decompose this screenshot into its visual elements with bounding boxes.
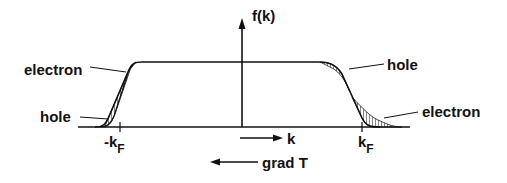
leader-right-hole <box>349 64 384 69</box>
neg-fermi-text: -k <box>104 133 117 150</box>
k-direction-arrowhead <box>273 135 283 142</box>
right-upper-shading <box>320 62 350 92</box>
neg-fermi-label: -kF <box>104 134 125 149</box>
neg-fermi-subscript: F <box>117 142 124 156</box>
distribution-diagram <box>0 0 507 183</box>
label-left-electron: electron <box>24 62 82 77</box>
right-lower-shading <box>352 97 402 127</box>
label-left-hole: hole <box>40 109 71 124</box>
gradient-label: grad T <box>262 155 308 170</box>
leader-right-electron <box>384 112 418 118</box>
x-axis-label: k <box>287 131 295 146</box>
leader-left-electron <box>90 67 126 72</box>
pos-fermi-subscript: F <box>366 142 373 156</box>
pos-fermi-label: kF <box>358 134 374 149</box>
left-shading <box>104 62 136 127</box>
y-axis-label: f(k) <box>252 8 275 23</box>
gradient-arrowhead <box>210 159 220 166</box>
label-right-electron: electron <box>422 104 480 119</box>
label-right-hole: hole <box>387 57 418 72</box>
leader-left-hole <box>80 117 108 119</box>
f-axis-arrowhead <box>239 18 246 29</box>
